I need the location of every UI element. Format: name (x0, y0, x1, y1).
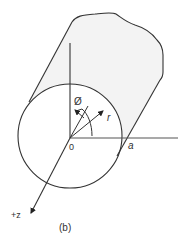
phi-label: Ø (74, 96, 82, 107)
origin-label: 0 (69, 142, 74, 152)
z-axis-label: +z (11, 210, 21, 220)
figure-caption: (b) (59, 222, 71, 233)
cylinder-coordinate-diagram: Ø r 0 a +z (b) (0, 0, 186, 244)
radius-label: a (128, 140, 134, 151)
